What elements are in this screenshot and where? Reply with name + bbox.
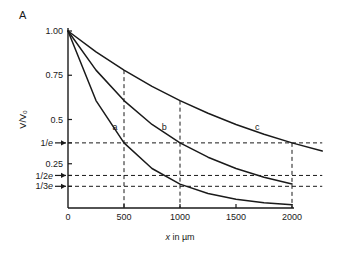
tick-arrowhead-icon xyxy=(61,140,66,145)
x-axis-tick-label: 1500 xyxy=(226,212,246,222)
x-axis-tick-label: 1000 xyxy=(170,212,190,222)
y-axis-tick-label: 0.5 xyxy=(50,115,63,125)
y-axis-tick-label: 1/3e xyxy=(35,181,53,191)
y-axis-tick-label: 1/2e xyxy=(35,171,53,181)
curve-label-a: a xyxy=(113,122,118,132)
x-axis-tick-label: 500 xyxy=(116,212,131,222)
curve-c xyxy=(68,31,322,151)
tick-arrowhead-icon xyxy=(61,184,66,189)
y-axis-tick-label: 0.75 xyxy=(45,70,63,80)
y-axis-tick-label: 1.00 xyxy=(45,26,63,36)
tick-arrowhead-icon xyxy=(61,173,66,178)
x-axis-tick-label: 0 xyxy=(65,212,70,222)
curve-label-c: c xyxy=(255,122,260,132)
y-axis-tick-label: 1/e xyxy=(40,138,53,148)
figure-panel: A abc1.000.750.51/e0.251/2e1/3e050010001… xyxy=(0,0,342,254)
decay-chart: abc1.000.750.51/e0.251/2e1/3e05001000150… xyxy=(0,0,342,254)
x-axis-tick-label: 2000 xyxy=(282,212,302,222)
curve-label-b: b xyxy=(162,122,167,132)
curve-b xyxy=(68,31,292,184)
y-axis-title: V/V₀ xyxy=(18,110,28,129)
x-axis-title: x in µm xyxy=(164,232,194,242)
y-axis-tick-label: 0.25 xyxy=(45,159,63,169)
